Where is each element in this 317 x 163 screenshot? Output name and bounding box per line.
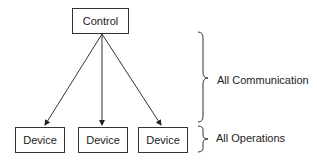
device-box-1: Device xyxy=(15,127,65,153)
brace-communication xyxy=(198,32,208,122)
device-label: Device xyxy=(23,134,57,146)
device-box-3: Device xyxy=(138,127,188,153)
arrow-to-device-1 xyxy=(45,34,102,125)
control-label: Control xyxy=(83,15,118,27)
all-operations-label: All Operations xyxy=(216,132,285,144)
all-communication-label: All Communication xyxy=(217,74,309,86)
arrow-to-device-3 xyxy=(102,34,161,125)
device-label: Device xyxy=(146,134,180,146)
device-label: Device xyxy=(86,134,120,146)
brace-operations xyxy=(198,126,208,152)
device-box-2: Device xyxy=(78,127,128,153)
control-box: Control xyxy=(72,8,129,34)
